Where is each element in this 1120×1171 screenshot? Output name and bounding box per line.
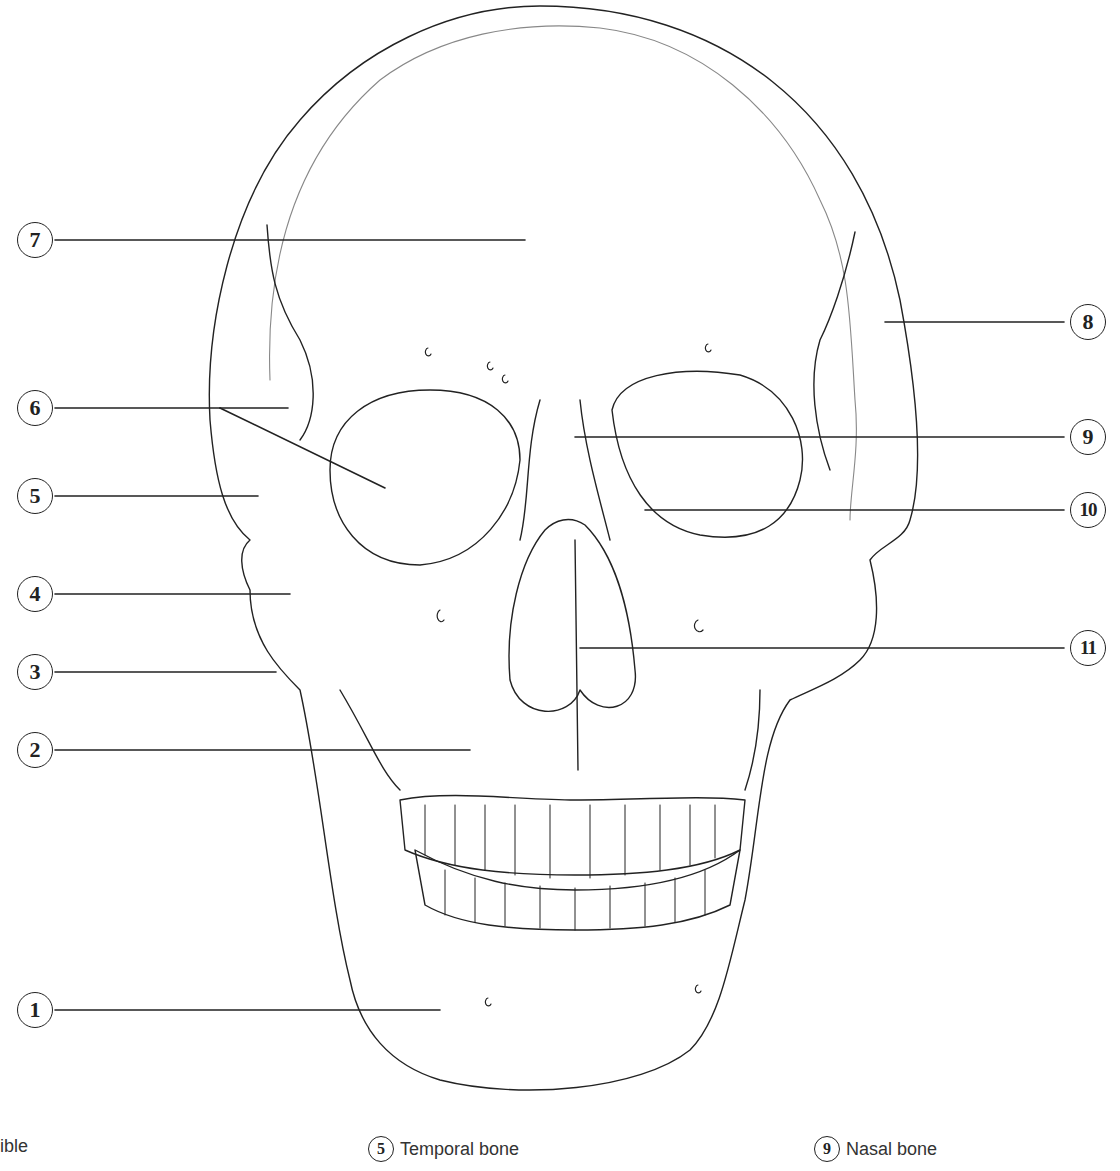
label-marker-6: 6 [17, 390, 53, 426]
label-marker-1: 1 [17, 992, 53, 1028]
nasal-bridge [520, 400, 610, 540]
lower-teeth [415, 850, 740, 930]
label-marker-8: 8 [1070, 304, 1106, 340]
label-number: 2 [30, 737, 41, 763]
legend-number: 5 [368, 1136, 394, 1162]
label-marker-10: 10 [1070, 492, 1106, 528]
label-marker-9: 9 [1070, 419, 1106, 455]
coronal-suture [270, 26, 857, 520]
legend-item-temporal-bone: 5 Temporal bone [368, 1136, 519, 1162]
label-number: 7 [30, 227, 41, 253]
label-number: 5 [30, 483, 41, 509]
label-marker-2: 2 [17, 732, 53, 768]
upper-teeth [400, 796, 745, 875]
legend-label: Nasal bone [846, 1139, 937, 1160]
label-number: 3 [30, 659, 41, 685]
right-orbit [612, 371, 803, 537]
legend-item-nasal-bone: 9 Nasal bone [814, 1136, 937, 1162]
nasal-cavity [509, 520, 635, 712]
label-number: 1 [30, 997, 41, 1023]
legend-number: 9 [814, 1136, 840, 1162]
label-number: 9 [1083, 424, 1094, 450]
cranium-outline [209, 6, 917, 1090]
label-number: 8 [1083, 309, 1094, 335]
legend-label: Temporal bone [400, 1139, 519, 1160]
skull-diagram [0, 0, 1120, 1171]
label-number: 6 [30, 395, 41, 421]
left-orbit [330, 390, 520, 565]
label-number: 10 [1080, 499, 1097, 521]
legend-item-mandible: ible [0, 1136, 28, 1157]
label-marker-4: 4 [17, 576, 53, 612]
label-marker-11: 11 [1070, 630, 1106, 666]
label-number: 11 [1080, 637, 1096, 659]
label-marker-5: 5 [17, 478, 53, 514]
legend-label: ible [0, 1136, 28, 1157]
label-marker-7: 7 [17, 222, 53, 258]
label-marker-3: 3 [17, 654, 53, 690]
label-number: 4 [30, 581, 41, 607]
